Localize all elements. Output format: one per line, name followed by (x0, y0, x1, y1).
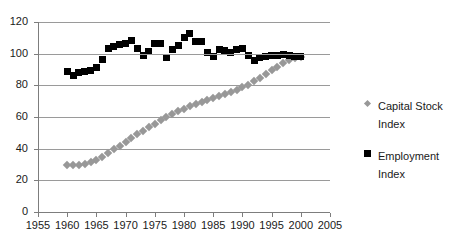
data-point (198, 38, 205, 45)
legend-label: Capital Stock Index (378, 100, 443, 130)
x-axis-tick (213, 213, 214, 217)
y-gridline (38, 180, 330, 181)
y-axis-tick-label: 60 (0, 111, 28, 122)
x-axis-tick (330, 213, 331, 217)
data-point (134, 45, 141, 52)
x-axis-tick (155, 213, 156, 217)
data-point (186, 30, 193, 37)
legend-item-capital-stock-index: Capital Stock Index (362, 96, 457, 132)
y-axis-tick-label: 40 (0, 143, 28, 154)
y-gridline (38, 22, 330, 23)
data-point (163, 54, 170, 61)
x-axis-tick-label: 2005 (310, 220, 350, 231)
data-point (175, 42, 182, 49)
y-gridline (38, 54, 330, 55)
diamond-marker-icon (364, 100, 371, 107)
x-axis-tick (301, 213, 302, 217)
y-axis-tick-label: 80 (0, 79, 28, 90)
legend-item-employment-index: Employment Index (362, 146, 457, 182)
y-axis-line (38, 22, 39, 212)
x-axis-tick (242, 213, 243, 217)
chart-legend: Capital Stock Index Employment Index (362, 96, 457, 196)
x-axis-tick (126, 213, 127, 217)
x-axis-tick (272, 213, 273, 217)
chart-container: 0204060801001201955196019651970197519801… (0, 0, 459, 251)
legend-label: Employment Index (378, 150, 439, 180)
y-axis-tick-label: 120 (0, 16, 28, 27)
data-point (99, 56, 106, 63)
x-axis-tick (38, 213, 39, 217)
x-axis-tick (184, 213, 185, 217)
x-axis-tick (67, 213, 68, 217)
data-point (157, 40, 164, 47)
y-gridline (38, 85, 330, 86)
x-axis-tick (96, 213, 97, 217)
y-axis-tick-label: 100 (0, 48, 28, 59)
y-gridline (38, 149, 330, 150)
data-point (93, 64, 100, 71)
y-gridline (38, 117, 330, 118)
data-point (128, 37, 135, 44)
y-axis-tick-label: 0 (0, 206, 28, 217)
y-axis-tick-label: 20 (0, 174, 28, 185)
square-marker-icon (364, 150, 371, 157)
